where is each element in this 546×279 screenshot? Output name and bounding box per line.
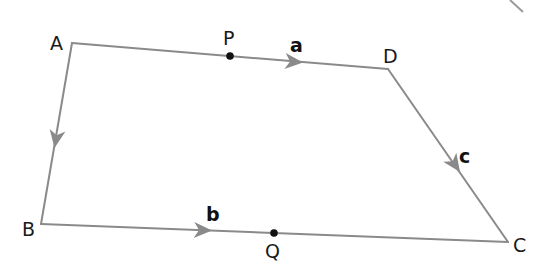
quadrilateral-vector-diagram: A B C D P Q a b c xyxy=(0,0,546,279)
stray-line xyxy=(510,0,523,12)
point-label-q: Q xyxy=(265,240,280,262)
vector-label-b: b xyxy=(206,203,220,225)
vertex-label-c: C xyxy=(513,234,526,256)
edge-ab xyxy=(41,43,72,224)
vertex-label-d: D xyxy=(383,45,398,67)
edge-dc xyxy=(388,69,508,242)
point-q xyxy=(270,229,278,237)
vertex-label-a: A xyxy=(50,32,63,54)
vertex-label-b: B xyxy=(22,218,35,240)
vector-label-a: a xyxy=(290,34,303,56)
point-p xyxy=(226,52,234,60)
vector-label-c: c xyxy=(459,145,470,167)
point-label-p: P xyxy=(223,27,234,49)
